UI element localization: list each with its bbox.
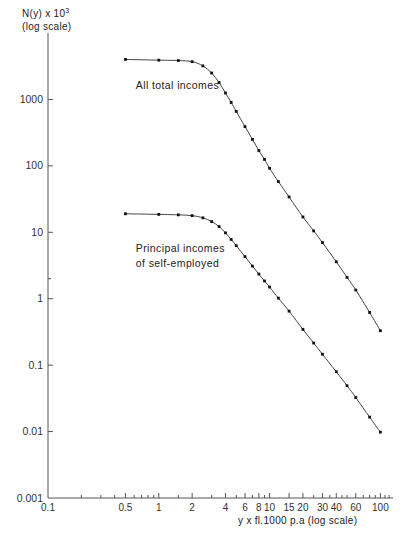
data-point: [157, 59, 160, 62]
data-point: [251, 138, 254, 141]
y-axis-title-line2: (log scale): [22, 21, 71, 32]
data-point: [368, 416, 371, 419]
y-axis-title: N(y) x 103: [22, 7, 69, 19]
data-point: [191, 214, 194, 217]
y-tick-label: 1000: [20, 93, 44, 105]
y-tick-label: 0.001: [17, 492, 43, 504]
data-point: [124, 212, 127, 215]
data-point: [288, 310, 291, 313]
y-tick-label: 0.01: [23, 425, 44, 437]
x-tick-label: 0.1: [41, 502, 55, 513]
data-point: [354, 396, 357, 399]
chart-container: 0.10.5124681015203040601000.0010.010.111…: [0, 0, 405, 536]
data-point: [230, 101, 233, 104]
y-tick-label: 0.1: [28, 359, 43, 371]
data-point: [177, 59, 180, 62]
data-point: [312, 229, 315, 232]
x-tick-label: 6: [242, 502, 248, 513]
series-2-annotation-line2: of self-employed: [136, 257, 219, 269]
x-tick-label: 60: [350, 502, 362, 513]
data-point: [277, 297, 280, 300]
data-point: [277, 180, 280, 183]
data-point: [312, 342, 315, 345]
data-point: [244, 255, 247, 258]
data-point: [379, 329, 382, 332]
x-tick-label: 15: [284, 502, 296, 513]
axis-lines: [48, 33, 393, 498]
data-point: [354, 289, 357, 292]
x-tick-label: 20: [297, 502, 309, 513]
series-1-annotation: All total incomes: [136, 79, 219, 91]
x-tick-label: 100: [372, 502, 389, 513]
data-point: [251, 265, 254, 268]
data-point: [124, 58, 127, 61]
data-point: [210, 220, 213, 223]
data-point: [224, 231, 227, 234]
x-tick-label: 30: [317, 502, 329, 513]
data-point: [224, 92, 227, 95]
data-point: [257, 149, 260, 152]
data-point: [268, 286, 271, 289]
y-tick-label: 10: [31, 226, 43, 238]
data-point: [257, 273, 260, 276]
data-point: [321, 353, 324, 356]
income-distribution-chart: 0.10.5124681015203040601000.0010.010.111…: [0, 0, 405, 536]
data-point: [346, 384, 349, 387]
data-point: [288, 196, 291, 199]
data-point: [177, 213, 180, 216]
data-point: [235, 244, 238, 247]
data-point: [157, 213, 160, 216]
data-point: [379, 431, 382, 434]
y-tick-label: 100: [25, 159, 43, 171]
data-point: [235, 110, 238, 113]
x-tick-label: 1: [156, 502, 162, 513]
x-tick-label: 0.5: [118, 502, 132, 513]
data-point: [230, 238, 233, 241]
series-line: [125, 59, 380, 330]
y-tick-label: 1: [37, 292, 43, 304]
x-tick-label: 2: [189, 502, 195, 513]
data-point: [201, 64, 204, 67]
data-point: [368, 311, 371, 314]
x-tick-label: 10: [264, 502, 276, 513]
data-point: [302, 216, 305, 219]
data-point: [191, 60, 194, 63]
data-point: [335, 260, 338, 263]
x-tick-label: 8: [256, 502, 262, 513]
series-1: [124, 58, 382, 332]
series-2-annotation-line1: Principal incomes: [136, 242, 225, 254]
x-tick-label: 40: [331, 502, 343, 513]
data-point: [201, 216, 204, 219]
data-point: [244, 125, 247, 128]
data-point: [335, 370, 338, 373]
x-tick-label: 4: [223, 502, 229, 513]
data-point: [263, 158, 266, 161]
data-point: [218, 225, 221, 228]
data-point: [346, 276, 349, 279]
data-point: [302, 328, 305, 331]
data-point: [263, 280, 266, 283]
data-point: [210, 72, 213, 75]
data-point: [268, 167, 271, 170]
x-axis-title: y x fl.1000 p.a (log scale): [238, 515, 357, 526]
data-point: [321, 241, 324, 244]
